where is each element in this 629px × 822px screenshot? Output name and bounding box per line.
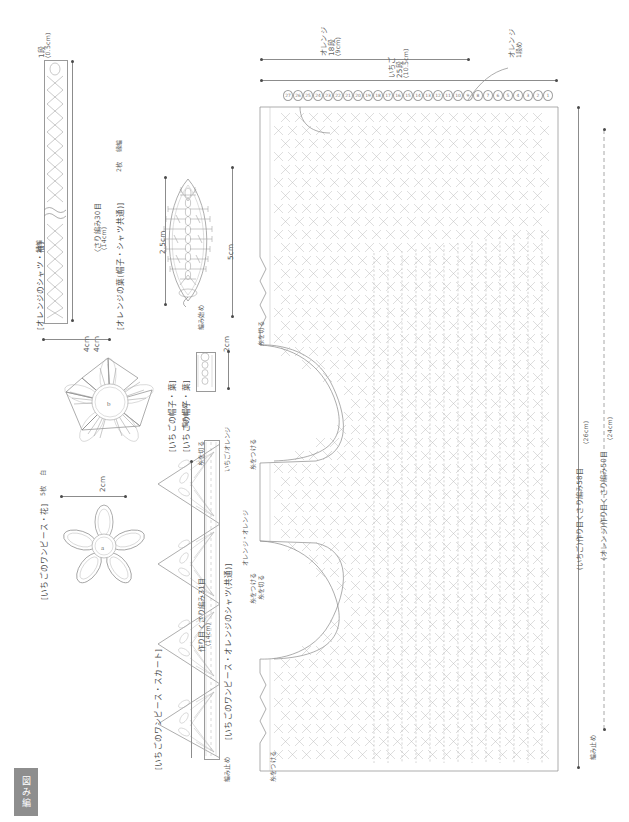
stem-piece-end-label: 編み止め <box>180 403 189 428</box>
leaf-width-dot-b <box>164 303 167 306</box>
stitch-count-badge: 14 <box>413 90 423 101</box>
sleeve-bottom-dim-line <box>44 339 110 340</box>
skirt-chain-size: (14cm) <box>204 623 211 646</box>
badge-char-3: 編 <box>22 798 31 808</box>
cut-yarn-label-2: 糸を切る <box>256 575 265 600</box>
stitch-count-badge: 6 <box>493 90 503 101</box>
skirt-dim-line <box>191 462 192 758</box>
stem-piece-dot-t <box>227 350 230 353</box>
body-chart <box>256 103 562 775</box>
attach-yarn-label-1: 糸をつける <box>248 439 257 470</box>
stitch-count-row: 2726252423222120191817161514131211109876… <box>283 90 553 102</box>
sleeve-stitch-grid <box>44 60 66 322</box>
stitch-count-badge: 27 <box>283 90 293 101</box>
stitch-count-badge: 26 <box>293 90 303 101</box>
body-strawberry-chain-dim <box>578 108 579 768</box>
svg-text:b: b <box>107 400 111 408</box>
dress-flower-dot-l <box>60 495 63 498</box>
sleeve-row-size: (0.5cm) <box>44 33 51 59</box>
dress-flower-count: 5枚 <box>38 486 47 496</box>
stitch-count-badge: 2 <box>533 90 543 101</box>
pattern-sheet: 図 み 編 <box>0 0 629 822</box>
stitch-count-badge: 22 <box>333 90 343 101</box>
body-strawberry-chain-dot-b <box>577 766 580 769</box>
stitch-count-badge: 4 <box>513 90 523 101</box>
stitch-count-badge: 19 <box>363 90 373 101</box>
body-orange-chain-label: (オレンジ)作り目くさり編み50目 <box>598 451 608 560</box>
body-strawberry-chain-dot-t <box>577 106 580 109</box>
body-orange-rows-size: (9cm) <box>334 37 341 56</box>
body-colors: いちご/オレンジ <box>222 426 231 472</box>
sleeve-chain-size: (14cm) <box>100 227 107 250</box>
stem-piece-dim-line <box>228 352 229 388</box>
leaf-suffix: 縁編 <box>114 140 123 152</box>
body-orange-first-row-sub: 1段め <box>514 41 523 58</box>
stitch-count-badge: 5 <box>503 90 513 101</box>
sleeve-width-dim-dot-top <box>71 60 74 63</box>
leaf-width-label: 2.5cm <box>158 231 167 254</box>
stitch-count-badge: 24 <box>313 90 323 101</box>
body-strawberry-dot-r <box>555 79 558 82</box>
stitch-count-badge: 25 <box>303 90 313 101</box>
dress-flower-width-label: 2cm <box>98 476 107 492</box>
body-strawberry-dim-line <box>262 80 557 81</box>
body-end-label: 編み止め <box>588 735 597 760</box>
body-orange-chain-size: (24cm) <box>606 417 613 440</box>
leaf-height-dot-t <box>231 166 234 169</box>
stitch-count-badge: 13 <box>423 90 433 101</box>
stitch-count-badge: 10 <box>453 90 463 101</box>
leaf-height-dim-line <box>232 168 233 316</box>
leaf-count: 2枚 <box>114 162 123 172</box>
dress-flower-suffix: 白 <box>38 470 47 476</box>
stitch-count-badge: 18 <box>373 90 383 101</box>
body-title: [いちごのワンピース・オレンジのシャツ(共通)] <box>222 563 233 740</box>
body-strawberry-chain-size: (26cm) <box>582 421 589 444</box>
body-strawberry-rows-size: (10.5cm) <box>402 48 409 78</box>
stitch-count-badge: 3 <box>523 90 533 101</box>
stitch-count-badge: 17 <box>383 90 393 101</box>
body-orange-chain-dot-t <box>603 128 606 131</box>
skirt-end-label: 編み止め <box>222 757 231 782</box>
stitch-count-badge: 7 <box>483 90 493 101</box>
dress-flower-motif: a <box>58 500 150 592</box>
skirt-foundation-chain <box>204 440 218 758</box>
leaf-height-dot-b <box>231 315 234 318</box>
sleeve-width-dim-dot-bottom <box>71 319 74 322</box>
stitch-count-badge: 20 <box>353 90 363 101</box>
hat-flower-width-label: 4cm <box>82 336 91 352</box>
cut-yarn-label-1: 糸を切る <box>256 321 265 346</box>
skirt-edge-label: 糸を切る <box>196 441 205 466</box>
stitch-count-badge: 16 <box>393 90 403 101</box>
stitch-count-badge: 9 <box>463 90 473 101</box>
body-orange-chain-dot-b <box>603 728 606 731</box>
leaf-width-dot-t <box>164 176 167 179</box>
body-strawberry-chain-label: (いちご)作り目くさり編み58目 <box>574 468 584 570</box>
skirt-dim-dot-t <box>190 460 193 463</box>
body-colors-note: オレンジ・オレンジ <box>240 510 249 566</box>
stitch-count-badge: 12 <box>433 90 443 101</box>
sleeve-bottom-dot-r <box>108 338 111 341</box>
body-stitch-texture <box>274 113 549 759</box>
dress-flower-dim-line <box>62 496 126 497</box>
sleeve-suffix: 縁編 <box>34 240 43 252</box>
stem-piece-stitches <box>196 352 214 390</box>
sleeve-width-dim-line <box>72 62 73 320</box>
dress-flower-title: [いちごのワンピース・花] <box>38 503 49 600</box>
leaf-title: [オレンジの葉(帽子・シャツ共通)] <box>114 203 125 330</box>
leaf-start-label: 編み始め <box>196 305 205 330</box>
corner-badge: 図 み 編 <box>14 768 38 816</box>
badge-char-1: 図 <box>22 776 31 786</box>
stitch-count-badge: 11 <box>443 90 453 101</box>
leaf-height-label: 5cm <box>226 244 235 260</box>
body-orange-dot-r <box>467 58 470 61</box>
stitch-count-badge: 23 <box>323 90 333 101</box>
stitch-count-badge: 1 <box>543 90 553 101</box>
body-strawberry-dot-l <box>260 79 263 82</box>
attach-yarn-label-3: 糸をつける <box>268 751 277 782</box>
sleeve-bottom-dot-l <box>42 338 45 341</box>
stem-piece-dot-b <box>227 387 230 390</box>
body-orange-dim-line <box>262 59 469 60</box>
dress-flower-dot-r <box>124 495 127 498</box>
stitch-count-badge: 8 <box>473 90 483 101</box>
stitch-count-badge: 15 <box>403 90 413 101</box>
